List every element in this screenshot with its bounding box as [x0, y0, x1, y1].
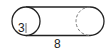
length-label: 8	[54, 37, 61, 50]
cylinder-right-cap-arc	[90, 7, 104, 36]
radius-label: 3	[18, 21, 25, 35]
cylinder-hidden-edge	[76, 7, 90, 36]
cylinder-diagram: 3 8	[0, 0, 109, 49]
